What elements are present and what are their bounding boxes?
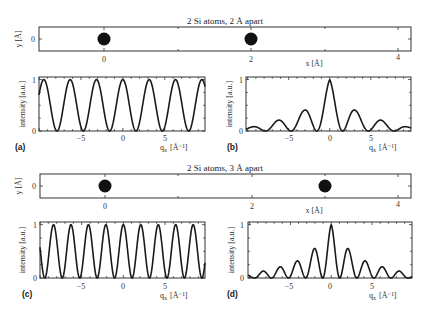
xtick-label: 2 (249, 55, 253, 64)
xtick-label: 0 (328, 282, 332, 291)
y-axis-label: y [Å] (14, 30, 23, 47)
xtick-label: 0 (121, 282, 125, 291)
xtick-label: 5 (369, 134, 373, 143)
xtick-label: 5 (370, 282, 374, 291)
ytick-label: 1 (239, 76, 243, 85)
panel-b-plot: 1 0 −5 0 5 qx[Å⁻¹] intensity [a.u.] (b) (225, 76, 411, 153)
ytick-label: 0 (33, 274, 37, 283)
x-axis-label: x [Å] (305, 59, 322, 68)
intensity-curve-d (248, 225, 412, 278)
panel-d-plot: 1 0 −5 0 5 qx[Å⁻¹] intensity [a.u.] (d) (227, 221, 412, 301)
xtick-label: 0 (103, 202, 107, 211)
xtick-label: −5 (77, 134, 86, 143)
xtick-label: 5 (163, 134, 167, 143)
structure-title-bottom: 2 Si atoms, 3 Å apart (187, 163, 263, 173)
x-axis-label: qx[Å⁻¹] (369, 143, 397, 153)
xtick-label: 0 (328, 134, 332, 143)
panel-label-b: (b) (227, 142, 238, 152)
xtick-label: −5 (77, 282, 86, 291)
x-axis-label: x [Å] (305, 206, 322, 215)
ytick-label: 1 (32, 76, 36, 85)
xtick-label: 0 (102, 55, 106, 64)
y-axis-label: y [Å] (14, 177, 23, 194)
xtick-label: 4 (396, 53, 400, 62)
x-axis-label: qx[Å⁻¹] (160, 143, 188, 153)
intensity-curve-b (246, 80, 411, 131)
intensity-curve-a (39, 80, 205, 131)
structure-plot-bottom: 2 Si atoms, 3 Å apart 0 0 2 4 x [Å] y [Å… (14, 163, 411, 215)
ytick-label: 1 (33, 221, 37, 230)
ytick-label: 0 (240, 274, 244, 283)
xtick-label: −5 (285, 282, 294, 291)
panel-c-plot: 1 0 −5 0 5 qx[Å⁻¹] intensity [a.u.] (c) (18, 221, 205, 301)
ytick-label: 0 (31, 35, 35, 44)
x-axis-label: qx[Å⁻¹] (369, 291, 397, 301)
structure-title-top: 2 Si atoms, 2 Å apart (187, 16, 263, 26)
panel-label-d: (d) (227, 289, 238, 299)
xtick-label: 2 (250, 202, 254, 211)
xtick-label: 5 (163, 282, 167, 291)
ytick-label: 0 (32, 127, 36, 136)
structure-frame-bottom (40, 174, 411, 198)
si-atom-marker (245, 33, 258, 46)
y-axis-label: intensity [a.u.] (18, 80, 27, 127)
xtick-label: −5 (285, 134, 294, 143)
figure: 2 Si atoms, 2 Å apart 0 0 2 4 x [Å] y [Å… (0, 0, 430, 314)
si-atom-marker (99, 180, 112, 193)
x-axis-label: qx[Å⁻¹] (160, 291, 188, 301)
panel-a-plot: 1 0 −5 0 5 qx[Å⁻¹] intensity [a.u.] (a) (15, 76, 205, 153)
xtick-label: 0 (121, 134, 125, 143)
structure-plot-top: 2 Si atoms, 2 Å apart 0 0 2 4 x [Å] y [Å… (14, 16, 411, 68)
panel-label-c: (c) (22, 289, 33, 299)
y-axis-label: intensity [a.u.] (225, 80, 234, 127)
structure-frame-top (39, 27, 411, 51)
intensity-curve-c (40, 225, 205, 278)
si-atom-marker (319, 180, 332, 193)
ytick-label: 0 (32, 182, 36, 191)
xtick-label: 4 (396, 200, 400, 209)
ytick-label: 0 (239, 127, 243, 136)
panel-label-a: (a) (15, 142, 26, 152)
ytick-label: 1 (240, 221, 244, 230)
y-axis-label: intensity [a.u.] (18, 226, 27, 273)
y-axis-label: intensity [a.u.] (227, 226, 236, 273)
si-atom-marker (98, 33, 111, 46)
